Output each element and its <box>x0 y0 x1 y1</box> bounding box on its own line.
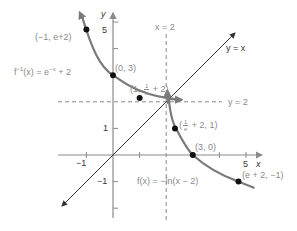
y-tick-5: 5 <box>102 25 107 35</box>
x-axis-label: x <box>256 159 261 169</box>
label-pre: (1, <box>130 84 143 94</box>
label-tail: + 2 <box>56 67 71 77</box>
label-rest: (x) = e <box>23 67 49 77</box>
point-label-e2: (e + 2, −1) <box>242 170 284 180</box>
frac-den: e <box>183 126 188 132</box>
frac-den: e <box>144 90 149 96</box>
horizontal-asymptote-label: y = 2 <box>228 97 248 107</box>
point-label-neg1: (−1, e+2) <box>35 32 72 42</box>
label-post: + 2) <box>150 84 168 94</box>
frac-num: 1 <box>144 83 149 90</box>
inverse-function-label: f−1(x) = e−x + 2 <box>14 64 71 77</box>
function-label: f(x) = −ln(x − 2) <box>137 176 198 186</box>
point-label-inv: (1e + 2, 1) <box>179 119 218 132</box>
x-axis <box>58 152 262 158</box>
frac-num: 1 <box>183 119 188 126</box>
y-axis <box>113 13 118 218</box>
x-tick-5: 5 <box>243 159 248 169</box>
vertical-asymptote-label: x = 2 <box>155 22 175 32</box>
y-axis-label: y <box>101 9 106 19</box>
point-label-0-3: (0, 3) <box>115 63 136 73</box>
point-label-3-0: (3, 0) <box>195 142 216 152</box>
label-pre: ( <box>179 120 182 130</box>
label-post: + 2, 1) <box>189 120 217 130</box>
x-tick-neg1: −1 <box>76 158 86 168</box>
identity-line-label: y = x <box>226 43 245 53</box>
y-tick-neg1: −1 <box>97 176 107 186</box>
point-label-1: (1, 1e + 2) <box>130 83 169 96</box>
y-tick-1: 1 <box>103 123 108 133</box>
